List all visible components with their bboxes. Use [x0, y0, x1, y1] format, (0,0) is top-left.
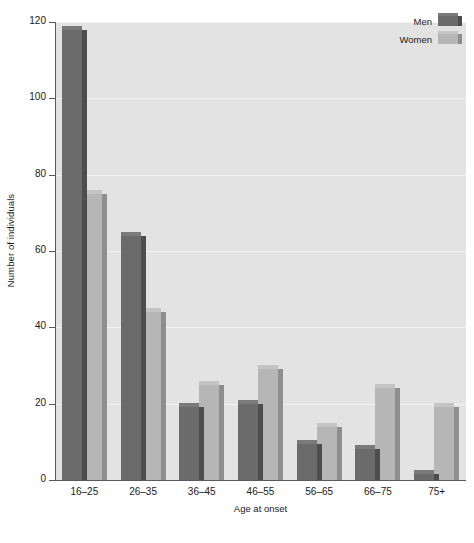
y-axis-line — [55, 22, 56, 481]
bar-men-56–65 — [297, 444, 317, 480]
legend-label-men: Men — [414, 16, 432, 27]
x-tick-label: 56–65 — [290, 486, 349, 497]
x-tick-label: 36–45 — [172, 486, 231, 497]
y-tick-label: 0 — [40, 473, 46, 485]
x-tick-label: 75+ — [407, 486, 466, 497]
bar-men-75+ — [414, 474, 434, 480]
bar-men-36–45 — [179, 407, 199, 480]
y-axis-title-label: Number of individuals — [6, 193, 17, 286]
legend-swatch-men — [438, 16, 462, 26]
chart-legend: Men Women — [366, 14, 462, 50]
legend-item-women: Women — [366, 32, 462, 46]
bar-chart-figure: Number of individuals Age at onset Men W… — [0, 0, 474, 543]
y-tick-label: 120 — [29, 15, 46, 27]
bar-group — [297, 22, 342, 480]
x-tick-label: 26–35 — [114, 486, 173, 497]
bar-group — [121, 22, 166, 480]
plot-area — [55, 22, 466, 480]
legend-label-women: Women — [399, 34, 432, 45]
bar-group — [414, 22, 459, 480]
bar-men-46–55 — [238, 404, 258, 480]
legend-swatch-women — [438, 34, 462, 44]
legend-item-men: Men — [366, 14, 462, 28]
bar-group — [238, 22, 283, 480]
x-axis-title: Age at onset — [55, 503, 466, 514]
y-axis-title: Number of individuals — [4, 0, 18, 480]
bar-men-26–35 — [121, 236, 141, 480]
y-tick-label: 20 — [35, 397, 46, 409]
bar-group — [179, 22, 224, 480]
bar-men-66–75 — [355, 449, 375, 480]
bar-men-16–25 — [62, 30, 82, 480]
y-tick-label: 40 — [35, 320, 46, 332]
x-tick-label: 66–75 — [349, 486, 408, 497]
x-tick-label: 16–25 — [55, 486, 114, 497]
bar-women-75+ — [434, 407, 454, 480]
x-tick-label: 46–55 — [231, 486, 290, 497]
y-tick-label: 80 — [35, 168, 46, 180]
bar-group — [62, 22, 107, 480]
x-axis-line — [55, 480, 466, 481]
bar-group — [355, 22, 400, 480]
y-tick-label: 100 — [29, 91, 46, 103]
x-axis-title-label: Age at onset — [234, 503, 287, 514]
y-tick-label: 60 — [35, 244, 46, 256]
